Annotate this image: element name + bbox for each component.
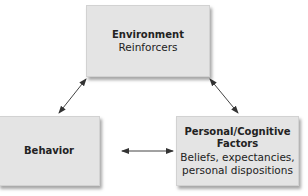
node-environment: Environment Reinforcers bbox=[86, 5, 210, 77]
node-behavior: Behavior bbox=[0, 116, 100, 186]
node-personal-subtitle-line2: personal dispositions bbox=[182, 164, 293, 176]
node-personal-subtitle-line1: Beliefs, expectancies, bbox=[180, 151, 294, 163]
node-behavior-title: Behavior bbox=[24, 145, 74, 157]
node-personal-cognitive: Personal/Cognitive Factors Beliefs, expe… bbox=[176, 116, 299, 186]
node-personal-title-line2: Factors bbox=[217, 138, 258, 150]
node-environment-subtitle: Reinforcers bbox=[118, 41, 177, 53]
arrow-environment-behavior bbox=[59, 79, 86, 113]
node-personal-title-line1: Personal/Cognitive bbox=[184, 126, 290, 138]
node-environment-title: Environment bbox=[112, 29, 184, 41]
arrow-environment-personal bbox=[210, 79, 238, 113]
